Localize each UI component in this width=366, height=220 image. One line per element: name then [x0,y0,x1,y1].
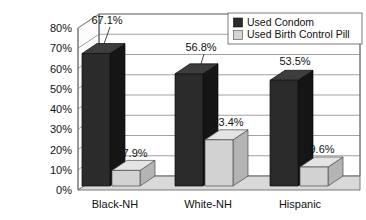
data-label-hispanic-pill: 9.6% [309,143,334,155]
legend-swatch-used-birth-control-pill [234,31,243,40]
bar-front-face [270,80,298,186]
y-tick-label: 10% [50,164,72,176]
chart-container: 80% 70% 60% 50% 40% 30% 20% 10% 0% [0,0,366,220]
bar-front-face [300,167,328,186]
bar-black-nh-condom[interactable] [82,44,125,187]
legend-label-used-birth-control-pill: Used Birth Control Pill [247,28,350,40]
legend[interactable]: Used Condom Used Birth Control Pill [228,13,362,44]
bar-chart-3d: 80% 70% 60% 50% 40% 30% 20% 10% 0% [0,0,366,220]
bar-front-face [205,140,233,186]
data-label-hispanic-condom: 53.5% [279,55,310,67]
y-tick-label: 80% [50,22,72,34]
y-axis-labels: 80% 70% 60% 50% 40% 30% 20% 10% 0% [50,22,72,196]
data-label-black-nh-condom: 67.1% [91,14,122,26]
y-tick-label: 60% [50,63,72,75]
x-tick-label-white-nh: White-NH [184,198,232,210]
legend-label-used-condom: Used Condom [247,16,314,28]
y-tick-label: 0% [56,184,72,196]
data-label-white-nh-condom: 56.8% [185,41,216,53]
y-tick-label: 70% [50,42,72,54]
bar-front-face [112,170,140,186]
bar-front-face [175,74,203,186]
data-label-black-nh-pill: 7.9% [122,147,147,159]
bar-white-nh-pill[interactable] [205,130,248,186]
legend-swatch-used-condom [234,18,243,27]
y-tick-label: 20% [50,144,72,156]
legend-entry-used-birth-control-pill[interactable]: Used Birth Control Pill [234,28,350,40]
y-tick-label: 30% [50,123,72,135]
x-tick-label-hispanic: Hispanic [279,198,322,210]
y-tick-label: 40% [50,103,72,115]
x-tick-label-black-nh: Black-NH [92,198,139,210]
y-tick-label: 50% [50,83,72,95]
data-label-white-nh-pill: 23.4% [212,116,243,128]
x-axis-labels: Black-NH White-NH Hispanic [92,198,322,210]
bar-front-face [82,54,110,187]
